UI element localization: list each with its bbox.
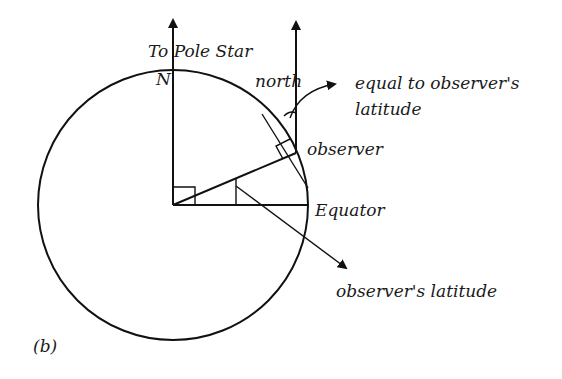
panel-label: (b) [33,336,57,356]
earth-latitude-diagram: To Pole Star N north equal to observer's… [0,0,562,379]
label-north-pole: N [155,69,172,89]
angle-arc-observer [284,112,296,116]
label-equal-line2: latitude [355,99,422,119]
label-observer: observer [307,139,384,159]
label-north: north [255,71,302,91]
label-equator: Equator [314,200,385,220]
label-equal-line1: equal to observer's [355,73,520,93]
latitude-pointer-arrow [236,186,346,268]
label-pole-star: To Pole Star [148,41,253,61]
label-observers-latitude: observer's latitude [336,281,497,301]
observer-radius [173,153,296,205]
horizon-tangent [262,114,308,188]
right-angle-marker-center [173,187,195,205]
